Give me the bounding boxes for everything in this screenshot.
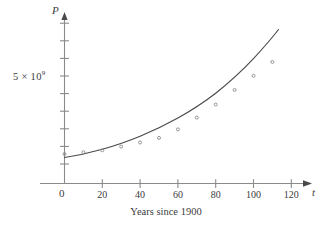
data-point — [139, 141, 142, 144]
y-tick-label-mantissa: 5 × 10 — [13, 71, 42, 82]
data-point — [271, 60, 274, 63]
y-axis-symbol-label: P — [52, 4, 59, 16]
data-point — [233, 88, 236, 91]
x-tick-label-60: 60 — [173, 189, 183, 200]
x-axis-arrowhead — [303, 180, 312, 187]
x-tick-label-20: 20 — [97, 189, 107, 200]
x-axis-symbol-label: t — [312, 186, 315, 198]
data-point — [101, 149, 104, 152]
population-growth-chart: P t 5 × 109 0 20 40 60 80 100 120 Years … — [0, 0, 324, 228]
data-point — [195, 116, 198, 119]
plot-canvas — [0, 0, 324, 228]
x-axis-caption: Years since 1900 — [130, 206, 201, 217]
x-tick-label-120: 120 — [284, 189, 299, 200]
y-tick-label-exponent: 9 — [42, 69, 46, 77]
data-point — [252, 74, 255, 77]
data-point — [158, 136, 161, 139]
data-point — [120, 145, 123, 148]
y-axis-arrowhead — [61, 12, 67, 20]
origin-tick-label: 0 — [59, 187, 65, 199]
x-tick-label-40: 40 — [135, 189, 145, 200]
x-tick-label-80: 80 — [211, 189, 221, 200]
x-tick-label-100: 100 — [246, 189, 261, 200]
data-point — [176, 128, 179, 131]
fitted-curve — [65, 30, 279, 158]
data-point — [214, 103, 217, 106]
data-point-markers — [63, 60, 274, 155]
data-point — [82, 151, 85, 154]
y-axis-tick-label-5e9: 5 × 109 — [13, 69, 46, 82]
